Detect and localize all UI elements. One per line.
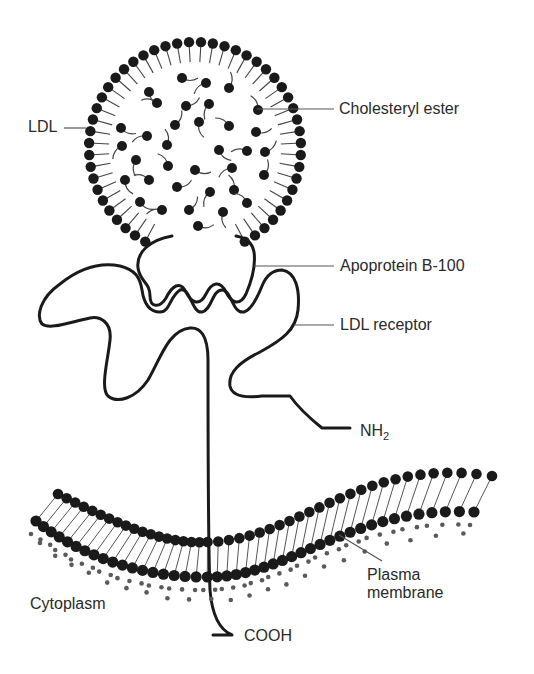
cholesteryl-ester-head: [144, 175, 154, 185]
phospholipid-head: [294, 162, 304, 172]
inner-lipid-head: [377, 516, 388, 527]
phospholipid-head: [283, 92, 293, 102]
cytoplasm-dot: [266, 587, 271, 592]
outer-lipid-head: [415, 469, 426, 480]
outer-lipid-head: [356, 484, 367, 495]
cholesteryl-ester-head: [131, 155, 141, 165]
cytoplasm-dot: [337, 547, 342, 552]
phospholipid-head: [88, 173, 98, 183]
label-ldl-receptor: LDL receptor: [340, 316, 432, 334]
lipid-tail: [255, 533, 260, 571]
cytoplasm-dot: [144, 590, 149, 595]
cholesteryl-ester-head: [142, 131, 152, 141]
cytoplasm-dot: [167, 586, 172, 591]
cytoplasm-dot: [344, 543, 349, 548]
inner-lipid-head: [117, 560, 128, 571]
cytoplasm-dot: [127, 579, 132, 584]
phospholipid-head: [88, 114, 98, 124]
outer-lipid-head: [304, 507, 315, 518]
lipid-tail: [459, 474, 476, 512]
cholesteryl-ester-head: [116, 123, 126, 133]
phospholipid-head: [97, 92, 107, 102]
inner-lipid-head: [107, 556, 118, 567]
cholesteryl-ester-head: [227, 163, 237, 173]
label-plasma-membrane: Plasma membrane: [367, 566, 443, 602]
cytoplasm-dot: [124, 586, 129, 591]
label-cholesteryl-ester: Cholesteryl ester: [339, 100, 459, 118]
inner-lipid-head: [401, 511, 412, 522]
outer-lipid-head: [202, 537, 213, 548]
cytoplasm-dot: [313, 555, 318, 560]
lipid-tail: [122, 532, 142, 565]
phospholipid-head: [138, 50, 148, 60]
nh2-subscript: 2: [383, 430, 389, 442]
cytoplasm-dot: [456, 522, 461, 527]
inner-lipid-head: [345, 527, 356, 538]
phospholipid-head: [282, 195, 292, 205]
phospholipid-head: [259, 223, 269, 233]
inner-lipid-head: [221, 570, 232, 581]
cytoplasm-dot: [91, 566, 96, 571]
cytoplasm-dot: [325, 551, 330, 556]
outer-lipid-head: [314, 502, 325, 513]
cholesteryl-ester-head: [260, 147, 270, 157]
phospholipid-head: [268, 215, 278, 225]
cholesteryl-ester-head: [172, 182, 182, 192]
phospholipid-head: [172, 38, 182, 48]
inner-lipid-head: [426, 507, 437, 518]
cytoplasm-dot: [356, 539, 361, 544]
phospholipid-head: [250, 230, 260, 240]
phospholipid-head: [149, 45, 159, 55]
cholesteryl-ester-head: [201, 78, 211, 88]
lipid-tail: [94, 522, 118, 555]
cytoplasm-dot: [242, 583, 247, 588]
outer-lipid-head: [390, 474, 401, 485]
cytoplasm-dot: [165, 596, 170, 601]
lipid-tail: [68, 511, 93, 542]
cholesteryl-ester-head: [205, 187, 215, 197]
phospholipid-head: [251, 57, 261, 67]
cholesteryl-ester-head: [170, 120, 180, 130]
outer-lipid-head: [284, 516, 295, 527]
inner-lipid-head: [202, 571, 213, 582]
phospholipid-head: [241, 50, 251, 60]
outer-lipid-head: [254, 527, 265, 538]
inner-lipid-head: [212, 571, 223, 582]
outer-lipid-head: [274, 520, 285, 531]
lipid-tail: [59, 507, 84, 537]
label-ldl: LDL: [28, 118, 57, 136]
cholesteryl-ester-head: [204, 99, 214, 109]
cytoplasm-dot: [440, 522, 445, 527]
cytoplasm-dot: [231, 585, 236, 590]
cholesteryl-ester-head: [218, 207, 228, 217]
cytoplasm-dot: [364, 536, 369, 541]
cytoplasm-dot: [228, 598, 233, 603]
outer-lipid-head: [345, 489, 356, 500]
cholesteryl-ester-head: [224, 121, 234, 131]
phospholipid-head: [294, 126, 304, 136]
outer-lipid-head: [428, 468, 439, 479]
outer-lipid-head: [378, 477, 389, 488]
outer-lipid-head: [367, 480, 378, 491]
phospholipid-head: [119, 64, 129, 74]
cholesteryl-ester-head: [194, 117, 204, 127]
cytoplasm-dot: [247, 593, 252, 598]
cytoplasm-dot: [434, 533, 439, 538]
cytoplasm-dot: [322, 564, 327, 569]
cytoplasm-dot: [209, 597, 214, 602]
cytoplasm-dot: [303, 573, 308, 578]
lipid-tail: [103, 526, 126, 559]
phospholipid-head: [103, 82, 113, 92]
outer-lipid-head: [213, 536, 224, 547]
phospholipid-head: [112, 215, 122, 225]
phospholipid-head: [130, 230, 140, 240]
cholesteryl-ester-head: [144, 87, 154, 97]
inner-lipid-head: [231, 569, 242, 580]
cytoplasm-dot: [38, 537, 43, 542]
cholesteryl-ester-head: [190, 165, 200, 175]
inner-lipid-head: [158, 569, 169, 580]
cytoplasm-dot: [69, 557, 74, 562]
cytoplasm-dot: [213, 588, 218, 593]
cytoplasm-dot: [306, 559, 311, 564]
phospholipid-head: [110, 73, 120, 83]
